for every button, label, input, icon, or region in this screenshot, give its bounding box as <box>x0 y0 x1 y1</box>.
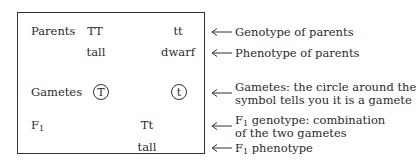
f1-label: F1 <box>31 118 44 132</box>
parent-genotype-tt-dominant: TT <box>87 24 103 38</box>
f1-phenotype: tall <box>138 140 157 154</box>
annotation-f1-phenotype: F1 phenotype <box>235 142 313 155</box>
f1-genotype: Tt <box>141 118 153 132</box>
annotation-f1-genotype: F1 genotype: combination of the two game… <box>235 114 385 139</box>
parents-label: Parents <box>31 24 75 38</box>
annotation-genotype-of-parents: Genotype of parents <box>235 26 354 39</box>
parent-phenotype-dwarf: dwarf <box>161 45 195 59</box>
gamete-circle-recessive: t <box>171 84 187 100</box>
parent-genotype-tt-recessive: tt <box>173 24 182 38</box>
gametes-label: Gametes <box>31 85 82 99</box>
annotation-gametes: Gametes: the circle around the symbol te… <box>235 81 416 106</box>
left-arrow-icon <box>210 27 232 37</box>
parent-phenotype-tall: tall <box>87 45 106 59</box>
gamete-circle-dominant: T <box>93 84 109 100</box>
gamete-recessive: t <box>177 87 181 98</box>
left-arrow-icon <box>210 48 232 58</box>
annotation-phenotype-of-parents: Phenotype of parents <box>235 47 360 60</box>
gamete-dominant: T <box>97 87 104 98</box>
left-arrow-icon <box>210 121 232 131</box>
left-arrow-icon <box>210 88 232 98</box>
left-arrow-icon <box>210 143 232 153</box>
